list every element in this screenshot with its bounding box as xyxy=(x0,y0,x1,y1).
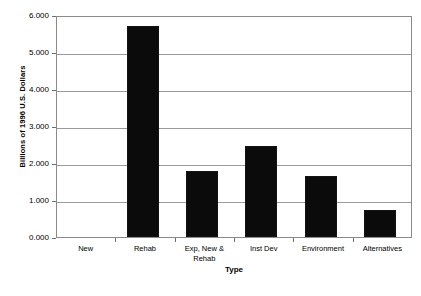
y-tick-label: 4.000 xyxy=(5,86,49,94)
bar-chart: Billions of 1996 U.S. Dollars 0.0001.000… xyxy=(0,0,421,296)
y-tick-label: 5.000 xyxy=(5,49,49,57)
gridline xyxy=(57,91,411,92)
x-tick-mark xyxy=(293,238,294,242)
x-category-label: Inst Dev xyxy=(234,244,293,254)
y-tick-label: 2.000 xyxy=(5,160,49,168)
y-tick-mark xyxy=(52,164,56,165)
bar xyxy=(127,26,159,237)
y-tick-mark xyxy=(52,90,56,91)
bar xyxy=(305,176,337,237)
y-tick-label: 1.000 xyxy=(5,197,49,205)
gridline xyxy=(57,202,411,203)
x-category-label: Exp, New & Rehab xyxy=(175,244,234,263)
x-axis-title: Type xyxy=(56,265,412,274)
x-category-label: Alternatives xyxy=(353,244,412,254)
y-tick-label: 6.000 xyxy=(5,12,49,20)
x-category-label: Rehab xyxy=(115,244,174,254)
x-tick-mark xyxy=(353,238,354,242)
gridline xyxy=(57,128,411,129)
y-axis-title: Billions of 1996 U.S. Dollars xyxy=(18,7,27,227)
x-tick-mark xyxy=(115,238,116,242)
x-tick-mark xyxy=(175,238,176,242)
x-category-label: New xyxy=(56,244,115,254)
y-tick-mark xyxy=(52,238,56,239)
plot-area xyxy=(56,16,412,238)
x-category-label: Environment xyxy=(293,244,352,254)
y-tick-mark xyxy=(52,201,56,202)
y-tick-mark xyxy=(52,16,56,17)
x-tick-mark xyxy=(234,238,235,242)
y-tick-label: 3.000 xyxy=(5,123,49,131)
y-tick-label: 0.000 xyxy=(5,234,49,242)
y-tick-mark xyxy=(52,53,56,54)
bar xyxy=(364,210,396,237)
bar xyxy=(186,171,218,237)
bar xyxy=(245,146,277,237)
gridline xyxy=(57,165,411,166)
gridline xyxy=(57,54,411,55)
y-tick-mark xyxy=(52,127,56,128)
